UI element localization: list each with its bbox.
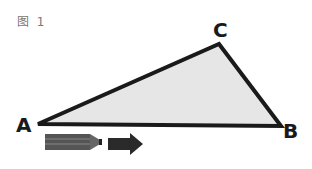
pencil-icon (45, 134, 102, 150)
arrow-right-icon (108, 133, 143, 155)
vertex-label-a: A (16, 113, 32, 137)
triangle-abc (38, 44, 281, 126)
triangle-diagram: A B C (0, 0, 312, 169)
vertex-label-c: C (213, 18, 228, 42)
vertex-label-b: B (283, 119, 298, 143)
